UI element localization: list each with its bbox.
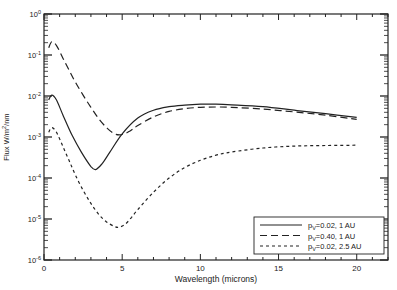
legend-label: pV=0.02, 1 AU [308,221,355,231]
legend-label: pV=0.40, 1 AU [308,232,355,242]
y-tick-label: 10-2 [28,91,41,101]
y-tick-label: 10-6 [28,255,41,265]
y-tick-label: 10-5 [28,214,41,224]
x-tick-label: 5 [120,264,125,273]
series-line-1 [49,95,357,170]
x-axis-label: Wavelength (microns) [175,274,258,284]
data-curves [49,42,357,228]
y-axis-label: Flux W/m2/nm [1,113,11,160]
legend: pV=0.02, 1 AUpV=0.40, 1 AUpV=0.02, 2.5 A… [254,217,384,254]
flux-chart: 0510152010-610-510-410-310-210-1100 pV=0… [0,0,397,290]
x-tick-label: 10 [196,264,205,273]
x-tick-label: 0 [42,264,47,273]
legend-label: pV=0.02, 2.5 AU [308,242,362,252]
x-tick-label: 20 [352,264,361,273]
y-tick-label: 10-3 [28,132,41,142]
y-tick-label: 100 [30,9,41,19]
y-tick-label: 10-1 [28,50,41,60]
x-tick-label: 15 [274,264,283,273]
series-line-3 [49,128,357,228]
y-tick-label: 10-4 [28,173,41,183]
series-line-2 [49,42,357,135]
